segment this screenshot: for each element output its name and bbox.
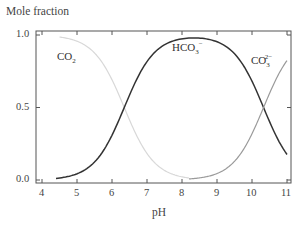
y-tick-label: 1.0: [16, 28, 29, 39]
y-axis-label: Mole fraction: [6, 5, 69, 17]
y-tick-label: 0.0: [16, 173, 29, 184]
x-tick-label: 6: [109, 187, 114, 198]
x-tick-label: 8: [179, 187, 184, 198]
curve-co3: [189, 61, 287, 179]
series-label-hco3: HCO3−: [172, 40, 203, 56]
series-label-co3: CO32−: [251, 53, 272, 69]
speciation-chart: [0, 0, 307, 225]
x-tick-label: 7: [144, 187, 149, 198]
x-axis-label: pH: [152, 206, 166, 218]
x-tick-label: 4: [39, 187, 44, 198]
y-tick-label: 0.5: [16, 101, 29, 112]
x-tick-label: 10: [246, 187, 257, 198]
x-tick-label: 9: [214, 187, 219, 198]
x-tick-label: 11: [281, 187, 291, 198]
x-tick-label: 5: [74, 187, 79, 198]
series-label-co2: CO2: [57, 50, 76, 65]
